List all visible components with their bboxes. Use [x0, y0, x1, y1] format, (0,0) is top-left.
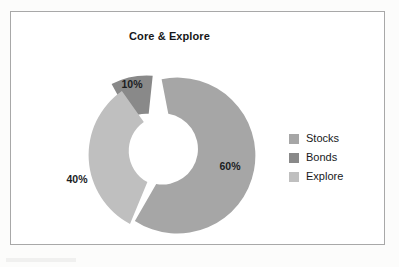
legend-swatch-explore [289, 172, 299, 182]
page-background: Core & Explore 60% 10% 40% Stocks [0, 0, 399, 267]
legend-label-stocks: Stocks [306, 133, 339, 144]
legend-label-explore: Explore [306, 171, 343, 182]
chart-frame: Core & Explore 60% 10% 40% Stocks [10, 11, 385, 245]
legend-item-stocks[interactable]: Stocks [289, 129, 381, 148]
scan-artifact [6, 258, 76, 262]
slice-label-explore: 40% [66, 173, 88, 185]
legend-swatch-stocks [289, 134, 299, 144]
chart-legend: Stocks Bonds Explore [289, 129, 381, 186]
legend-swatch-bonds [289, 153, 299, 163]
pie-slice-stocks[interactable] [135, 78, 255, 234]
legend-item-explore[interactable]: Explore [289, 167, 381, 186]
slice-label-bonds: 10% [121, 78, 143, 90]
legend-label-bonds: Bonds [306, 152, 337, 163]
legend-item-bonds[interactable]: Bonds [289, 148, 381, 167]
slice-label-stocks: 60% [219, 160, 241, 172]
